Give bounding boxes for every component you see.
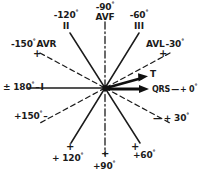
label-plus-120-tick: + (66, 142, 74, 152)
axis-line-avr (40, 53, 105, 88)
degree-sign-icon: ° (194, 82, 197, 89)
axis-line-lead-II-positive (105, 88, 140, 143)
label-roman-III: III (118, 22, 160, 31)
label-qrs-vector: QRS (152, 85, 170, 94)
hexaxial-reference-diagram: -90° AVF -120° II -60° III -150°AVR + AV… (0, 0, 200, 177)
label-dash: — (153, 113, 162, 123)
degree-sign-icon: ° (152, 148, 155, 155)
label-minus-120-lead-II: -120° II (45, 11, 87, 31)
label-plus-0-value: + 0 (180, 85, 194, 94)
label-plus-90-tick: + (101, 149, 109, 159)
label-minus-90-value: -90 (96, 2, 112, 12)
label-t-vector: T (150, 70, 156, 79)
label-plus-minus-180-lead-I: ± 180°–I (3, 83, 44, 92)
label-plus-150-value: +150 (14, 111, 40, 121)
label-plus-120: + 120° (52, 154, 83, 163)
label-avl-plus-sign: + (159, 49, 167, 59)
label-dash: – (35, 82, 39, 92)
label-plus-minus-180-value: ± 180 (3, 82, 31, 92)
label-minus-60-value: -60 (130, 10, 146, 20)
label-plus-60-value: +60 (133, 150, 152, 160)
label-minus-120-value: -120 (54, 10, 76, 20)
degree-sign-icon: ° (111, 0, 114, 7)
label-plus-30-value: + 30 (164, 113, 186, 123)
axis-line-lead-III-positive (71, 88, 105, 143)
label-plus-90-value: +90 (93, 161, 112, 171)
degree-sign-icon: ° (112, 159, 115, 166)
label-plus-150: +150°– (14, 112, 48, 121)
label-plus-90: +90° (93, 162, 115, 171)
degree-sign-icon: ° (145, 8, 148, 15)
degree-sign-icon: ° (31, 80, 34, 87)
label-roman-II: II (45, 22, 87, 31)
label-minus-30-value: -30 (165, 39, 181, 49)
axis-line-avl-opposite (40, 88, 105, 123)
degree-sign-icon: ° (181, 37, 184, 44)
degree-sign-icon: ° (75, 8, 78, 15)
degree-sign-icon: ° (80, 151, 83, 158)
label-qrs-plus-0: QRS—+ 0° (152, 85, 197, 94)
label-minus-60-lead-III: -60° III (118, 11, 160, 31)
label-dash: – (43, 111, 47, 121)
label-roman-I: I (41, 82, 44, 92)
axis-line-lead-II (70, 33, 105, 88)
label-plus-60: +60° (133, 151, 155, 160)
label-dash: — (171, 85, 179, 94)
degree-sign-icon: ° (33, 37, 36, 44)
origin-point (102, 85, 108, 91)
label-plus-120-value: + 120 (52, 153, 80, 163)
label-avr-plus-sign: + (33, 49, 41, 59)
degree-sign-icon: ° (40, 109, 43, 116)
label-plus-30: —+ 30° (153, 114, 189, 123)
label-minus-150-value: -150 (11, 39, 33, 49)
degree-sign-icon: ° (186, 111, 189, 118)
